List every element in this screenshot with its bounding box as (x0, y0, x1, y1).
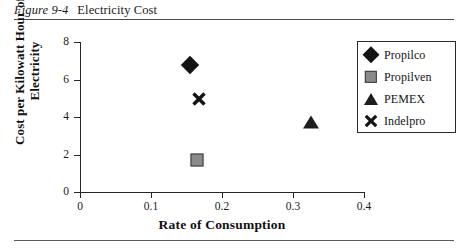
figure-page: Figure 9-4Electricity Cost 02468 00.10.2… (0, 0, 468, 248)
x-tick (364, 192, 365, 198)
y-tick-label: 2 (41, 149, 69, 160)
scatter-plot: 02468 00.10.20.30.4 Rate of Consumption … (0, 0, 468, 248)
data-point-indelpro (191, 92, 206, 107)
y-tick-label: 4 (41, 111, 69, 122)
legend-item-indelpro[interactable]: Indelpro (358, 110, 457, 132)
chart-legend: PropilcoPropilvenPEMEXIndelpro (357, 41, 456, 133)
x-tick (80, 192, 81, 198)
y-tick (74, 155, 80, 156)
x-tick (293, 192, 294, 198)
y-tick-label: 6 (41, 74, 69, 85)
legend-item-label: PEMEX (384, 92, 425, 107)
x-tick-label: 0.1 (131, 200, 171, 212)
data-point-pemex (303, 115, 319, 128)
x-tick (151, 192, 152, 198)
x-tick-label: 0.3 (273, 200, 313, 212)
y-axis-title-line-1: Cost per Kilowatt Hour of (12, 0, 27, 145)
x-axis-title: Rate of Consumption (80, 217, 364, 233)
legend-marker-icon (358, 111, 384, 131)
y-tick (74, 80, 80, 81)
y-axis-title-line-2: Electricity (27, 42, 42, 101)
x-tick-label: 0.2 (202, 200, 242, 212)
y-tick-label: 8 (41, 36, 69, 47)
legend-item-propilco[interactable]: Propilco (358, 44, 457, 66)
legend-marker-icon (358, 89, 384, 109)
legend-item-label: Propilco (384, 48, 425, 63)
y-tick (74, 117, 80, 118)
legend-marker-icon (358, 67, 384, 87)
data-point-propilven (191, 154, 204, 167)
y-axis-title: Cost per Kilowatt Hour of Electricity (12, 0, 42, 151)
x-tick-label: 0.4 (344, 200, 384, 212)
y-tick (74, 42, 80, 43)
legend-item-label: Indelpro (384, 114, 425, 129)
x-tick (222, 192, 223, 198)
x-tick-label: 0 (60, 200, 100, 212)
legend-marker-icon (358, 45, 384, 65)
y-axis-line (80, 42, 81, 193)
legend-item-label: Propilven (384, 70, 432, 85)
data-point-propilco (181, 55, 199, 73)
y-tick-label: 0 (41, 186, 69, 197)
legend-item-pemex[interactable]: PEMEX (358, 88, 457, 110)
legend-item-propilven[interactable]: Propilven (358, 66, 457, 88)
